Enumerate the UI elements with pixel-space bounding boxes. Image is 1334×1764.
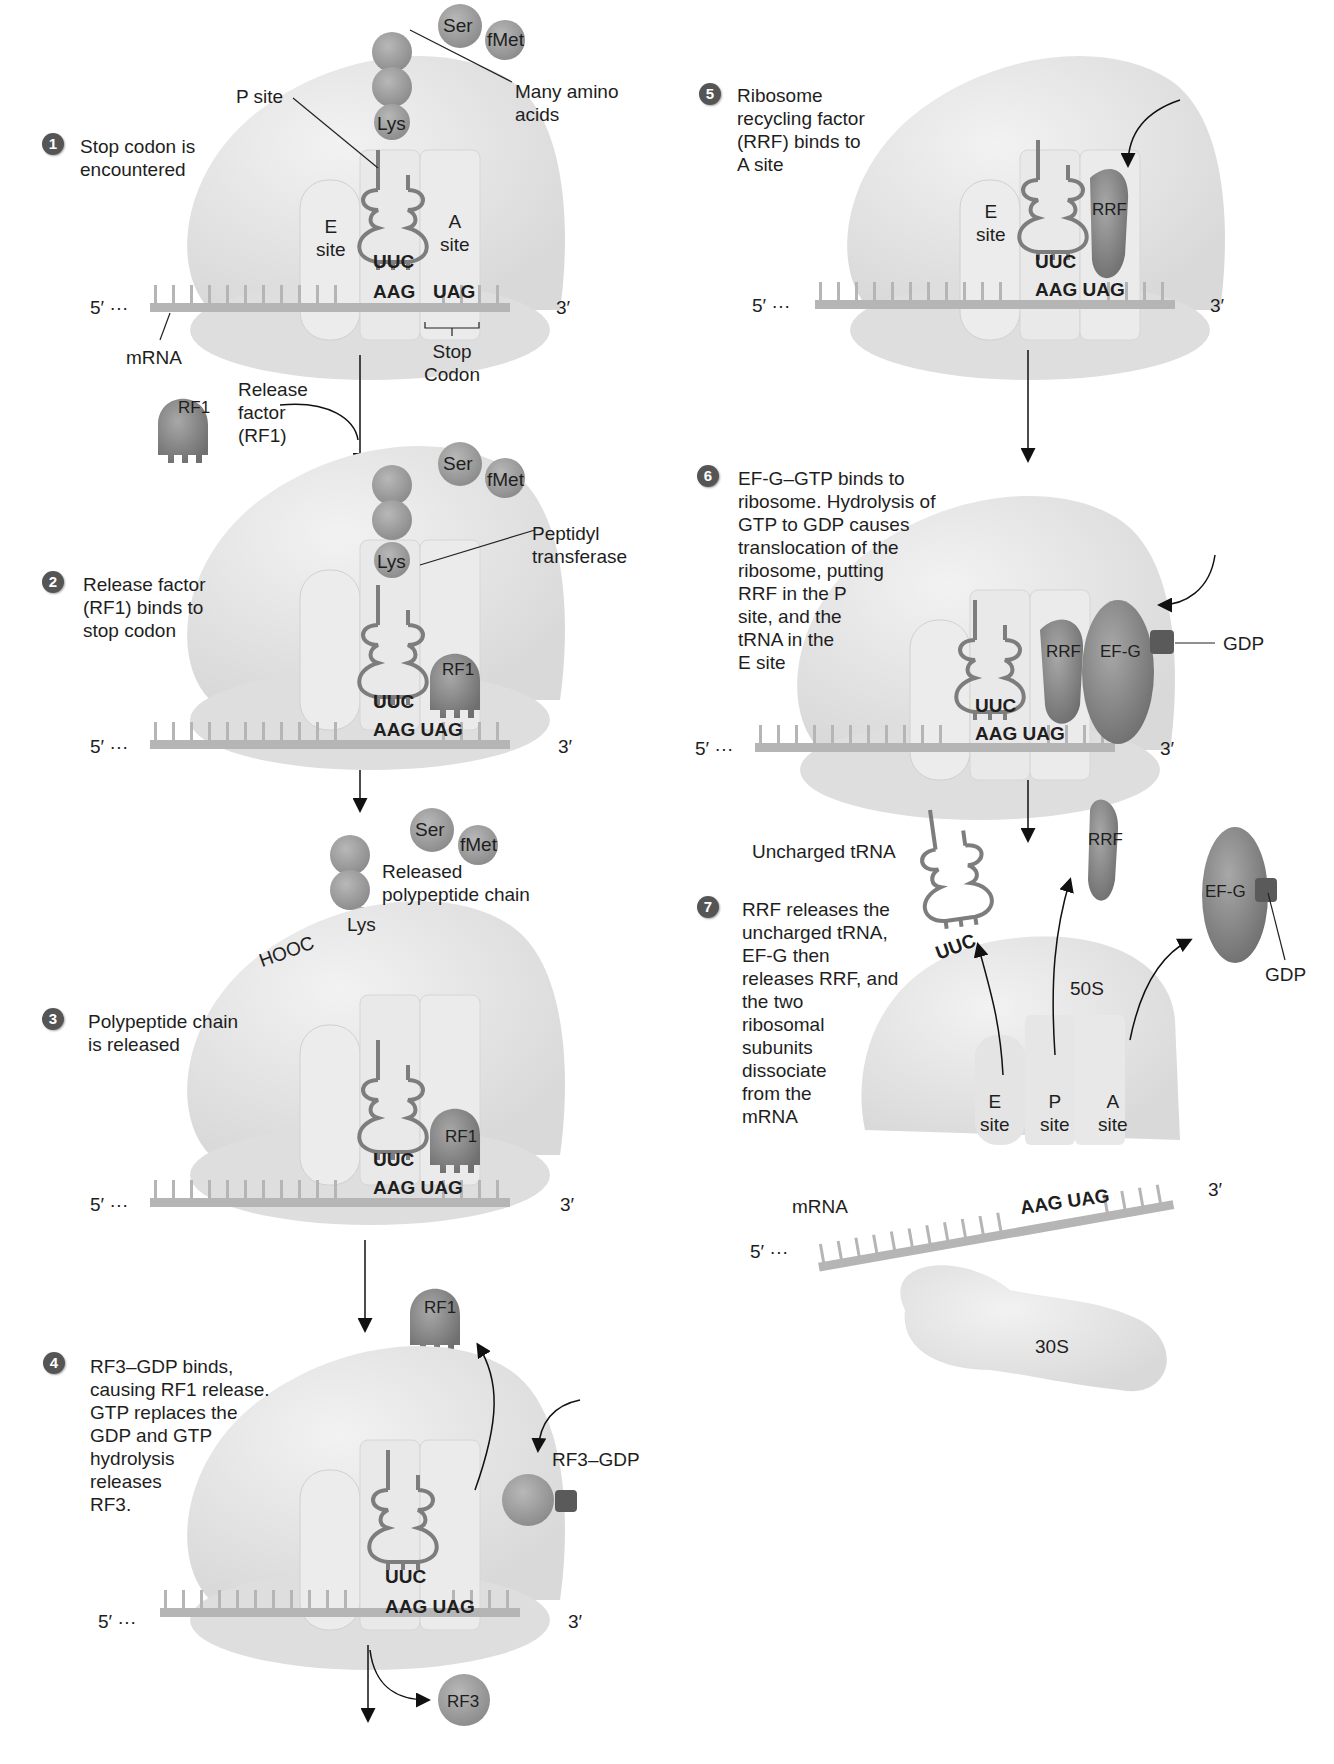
rf1-label: RF1 [178,396,210,419]
three-prime-label: 3′ [556,296,570,319]
lys-label-3: Lys [347,913,376,936]
uncharged-trna-label: Uncharged tRNA [752,840,896,863]
many-amino-acids-label: Many amino acids [515,80,619,126]
five-prime-label-7: 5′ ··· [750,1240,788,1263]
step-1-badge: 1 [42,133,64,155]
lys-label-2: Lys [377,550,406,573]
five-prime-label-6: 5′ ··· [695,737,733,760]
three-prime-label-2: 3′ [558,735,572,758]
codon-pair-label-3: AAG UAG [373,1176,463,1199]
anticodon-label-4: UUC [385,1565,426,1588]
five-prime-label-3: 5′ ··· [90,1193,128,1216]
step-1-text: Stop codon is encountered [80,135,195,181]
codon-p-label: AAG [373,280,415,303]
three-prime-label-3: 3′ [560,1193,574,1216]
three-prime-label-7: 3′ [1208,1178,1222,1201]
codon-pair-label-6: AAG UAG [975,722,1065,745]
codon-pair-label-2: AAG UAG [373,718,463,741]
anticodon-label-3: UUC [373,1148,414,1171]
mrna-label: mRNA [126,346,182,369]
anticodon-label-5: UUC [1035,250,1076,273]
step-5-text: Ribosome recycling factor (RRF) binds to… [737,84,865,176]
step-2-text: Release factor (RF1) binds to stop codon [83,573,206,642]
ser-label-3: Ser [415,818,445,841]
step-3-badge: 3 [42,1008,64,1030]
rrf-label-5: RRF [1092,198,1127,221]
five-prime-label-4: 5′ ··· [98,1610,136,1633]
e-site-label: E site [316,215,346,261]
e-site-label-5: E site [976,200,1006,246]
step-7-text: RRF releases the uncharged tRNA, EF-G th… [742,898,898,1128]
step-7-badge: 7 [697,896,719,918]
rf3-label: RF3 [447,1690,479,1713]
anticodon-label: UUC [373,250,414,273]
five-prime-label-2: 5′ ··· [90,735,128,758]
rf1-label-3: RF1 [445,1125,477,1148]
rf1-label-4: RF1 [424,1296,456,1319]
lys-label: Lys [377,112,406,135]
ser-label: Ser [443,14,473,37]
anticodon-label-2: UUC [373,690,414,713]
five-prime-label-5: 5′ ··· [752,294,790,317]
released-chain-label: Released polypeptide chain [382,860,530,906]
p-site-label-7: P site [1040,1090,1070,1136]
fmet-label-2: fMet [487,468,524,491]
efg-label-6: EF-G [1100,640,1141,663]
step-4-badge: 4 [43,1352,65,1374]
step-2-badge: 2 [42,571,64,593]
anticodon-label-6: UUC [975,694,1016,717]
codon-pair-label-5: AAG UAG [1035,278,1125,301]
p-site-label: P site [236,85,283,108]
gdp-label-6: GDP [1223,632,1264,655]
rrf-label-7: RRF [1088,828,1123,851]
gdp-label-7: GDP [1265,963,1306,986]
release-factor-label: Release factor (RF1) [238,378,308,447]
30s-label: 30S [1035,1335,1069,1358]
stop-codon-label: Stop Codon [424,340,480,386]
three-prime-label-5: 3′ [1210,294,1224,317]
fmet-label-3: fMet [460,833,497,856]
rrf-label-6: RRF [1046,640,1081,663]
codon-a-label: UAG [433,280,475,303]
step-6-text: EF-G–GTP binds to ribosome. Hydrolysis o… [738,467,935,674]
mrna-label-7: mRNA [792,1195,848,1218]
efg-label-7: EF-G [1205,880,1246,903]
three-prime-label-4: 3′ [568,1610,582,1633]
step-3-text: Polypeptide chain is released [88,1010,238,1056]
step-6-badge: 6 [697,465,719,487]
codon-pair-label-4: AAG UAG [385,1595,475,1618]
50s-label: 50S [1070,977,1104,1000]
ser-label-2: Ser [443,452,473,475]
step-4-text: RF3–GDP binds, causing RF1 release. GTP … [90,1355,270,1516]
peptidyl-transferase-label: Peptidyl transferase [532,522,627,568]
fmet-label: fMet [487,28,524,51]
step-5-badge: 5 [699,83,721,105]
three-prime-label-6: 3′ [1160,737,1174,760]
a-site-label: A site [440,210,470,256]
e-site-label-7: E site [980,1090,1010,1136]
five-prime-label: 5′ ··· [90,296,128,319]
rf3-gdp-label: RF3–GDP [552,1448,640,1471]
a-site-label-7: A site [1098,1090,1128,1136]
rf1-label-2: RF1 [442,658,474,681]
